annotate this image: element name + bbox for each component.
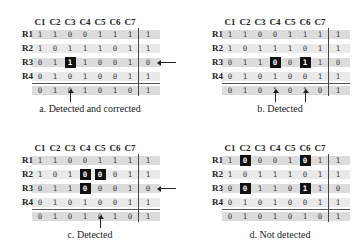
column-parity-cell: 1 [77, 86, 93, 95]
column-error-arrow-icon [70, 92, 71, 102]
parity-divider [138, 28, 139, 96]
row-parity-cell: 1 [330, 156, 346, 165]
bit-cell: 1 [237, 198, 253, 207]
column-parity-cell: 1 [47, 86, 63, 95]
bit-cell: 1 [282, 44, 298, 53]
column-parity-cell: 1 [297, 212, 313, 221]
row-parity-cell: 1 [140, 72, 156, 81]
row-parity-cell: 1 [140, 30, 156, 39]
row-parity-cell: 1 [140, 198, 156, 207]
column-header: C4 [267, 143, 283, 153]
bit-cell: 1 [122, 156, 138, 165]
bit-cell: 1 [222, 44, 238, 53]
error-bit-cell: 0 [240, 183, 251, 194]
bit-cell: 1 [32, 156, 48, 165]
bit-cell: 0 [107, 72, 123, 81]
column-header: C3 [252, 143, 268, 153]
bit-cell: 1 [282, 170, 298, 179]
bit-cell: 1 [252, 184, 268, 193]
column-header: C2 [47, 143, 63, 153]
bit-cell: 0 [237, 44, 253, 53]
bit-cell: 1 [92, 156, 108, 165]
column-parity-cell: 1 [237, 212, 253, 221]
error-bit-cell: 0 [300, 155, 311, 166]
row-error-arrow-icon [160, 188, 176, 189]
column-header: C1 [222, 143, 238, 153]
bit-cell: 1 [62, 44, 78, 53]
bit-cell: 1 [222, 170, 238, 179]
column-header: C1 [32, 143, 48, 153]
bit-cell: 1 [222, 156, 238, 165]
bit-cell: 1 [92, 44, 108, 53]
column-header: C1 [32, 17, 48, 27]
column-header: C7 [122, 17, 138, 27]
bit-cell: 0 [92, 198, 108, 207]
panel-b: C1C2C3C4C5C6C7R111001111R210111011R30110… [190, 6, 357, 130]
bit-cell: 1 [77, 72, 93, 81]
parity-divider [328, 28, 329, 96]
row-error-arrow-icon [160, 62, 176, 63]
column-parity-cell: 1 [107, 86, 123, 95]
error-bit-cell: 1 [300, 57, 311, 68]
bit-cell: 1 [312, 72, 328, 81]
column-parity-cell: 1 [107, 212, 123, 221]
error-bit-cell: 0 [270, 57, 281, 68]
row-parity-cell: 1 [330, 44, 346, 53]
bit-cell: 1 [282, 30, 298, 39]
bit-cell: 1 [77, 44, 93, 53]
bit-cell: 0 [222, 58, 238, 67]
bit-cell: 1 [62, 170, 78, 179]
error-bit-cell: 0 [240, 155, 251, 166]
bit-cell: 1 [47, 30, 63, 39]
separator-line [32, 83, 160, 84]
column-header: C5 [282, 17, 298, 27]
bit-cell: 0 [267, 156, 283, 165]
column-parity-cell: 1 [140, 212, 156, 221]
bit-cell: 1 [297, 30, 313, 39]
column-parity-cell: 0 [282, 86, 298, 95]
row-parity-cell: 0 [330, 58, 346, 67]
bit-cell: 0 [297, 44, 313, 53]
bit-cell: 1 [62, 184, 78, 193]
row-parity-cell: 1 [330, 30, 346, 39]
panel-caption: c. Detected [0, 229, 180, 240]
bit-cell: 0 [32, 72, 48, 81]
column-parity-cell: 1 [140, 86, 156, 95]
column-parity-cell: 1 [330, 86, 346, 95]
column-header: C2 [47, 17, 63, 27]
error-bit-cell: 1 [300, 183, 311, 194]
column-parity-cell: 0 [252, 86, 268, 95]
bit-cell: 0 [107, 198, 123, 207]
column-header: C2 [237, 17, 253, 27]
bit-cell: 1 [122, 30, 138, 39]
column-header: C5 [92, 17, 108, 27]
bit-cell: 1 [122, 72, 138, 81]
bit-cell: 0 [282, 72, 298, 81]
bit-cell: 1 [267, 72, 283, 81]
bit-cell: 1 [237, 30, 253, 39]
column-header: C7 [312, 143, 328, 153]
column-parity-cell: 0 [122, 86, 138, 95]
column-header: C7 [312, 17, 328, 27]
column-header: C7 [122, 143, 138, 153]
column-header: C3 [252, 17, 268, 27]
panel-a: C1C2C3C4C5C6C7R111001111R210111011R30111… [0, 6, 178, 130]
column-parity-cell: 1 [237, 86, 253, 95]
bit-cell: 1 [32, 30, 48, 39]
error-bit-cell: 1 [65, 57, 76, 68]
bit-cell: 0 [92, 184, 108, 193]
error-bit-cell: 0 [95, 169, 106, 180]
bit-cell: 1 [122, 44, 138, 53]
bit-cell: 1 [252, 170, 268, 179]
bit-cell: 1 [122, 170, 138, 179]
row-parity-cell: 1 [330, 72, 346, 81]
column-header: C3 [62, 143, 78, 153]
bit-cell: 0 [62, 198, 78, 207]
parity-divider [138, 154, 139, 222]
error-bit-cell: 0 [80, 183, 91, 194]
bit-cell: 0 [222, 72, 238, 81]
bit-cell: 0 [222, 198, 238, 207]
column-parity-cell: 0 [282, 212, 298, 221]
bit-cell: 1 [312, 30, 328, 39]
column-header: C6 [107, 17, 123, 27]
